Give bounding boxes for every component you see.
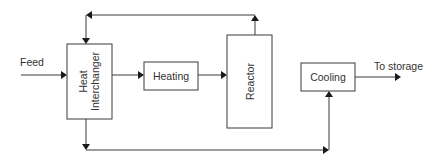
top-return-arrowhead-icon (86, 11, 92, 19)
process-flow-diagram: Feed Heat Interchanger Heating Reactor (0, 0, 443, 166)
to-storage-arrowhead-icon (395, 73, 401, 81)
bottom-transfer-arrowhead-icon (323, 146, 329, 154)
feed-arrowhead-icon (61, 71, 67, 79)
feed-label: Feed (20, 56, 44, 68)
reactor-outlet-arrowhead-icon (251, 15, 259, 21)
cooling-inlet-arrowhead-icon (325, 91, 333, 97)
reactor-label: Reactor (244, 63, 256, 100)
heat-interchanger-label-line2: Interchanger (89, 52, 101, 111)
heating-label: Heating (153, 70, 189, 82)
interchanger-outlet-arrowhead-icon (82, 144, 90, 150)
to-storage-label: To storage (374, 60, 423, 72)
reactor-arrowhead-icon (221, 71, 227, 79)
heat-interchanger-label-line1: Heat (77, 70, 89, 92)
cooling-unit: Cooling (301, 63, 355, 91)
cooling-label: Cooling (310, 71, 346, 83)
heating-unit: Heating (144, 62, 198, 90)
heating-arrowhead-icon (138, 71, 144, 79)
reactor-unit: Reactor (227, 35, 272, 128)
interchanger-inlet-arrowhead-icon (82, 38, 90, 44)
heat-interchanger-unit: Heat Interchanger (67, 44, 112, 119)
